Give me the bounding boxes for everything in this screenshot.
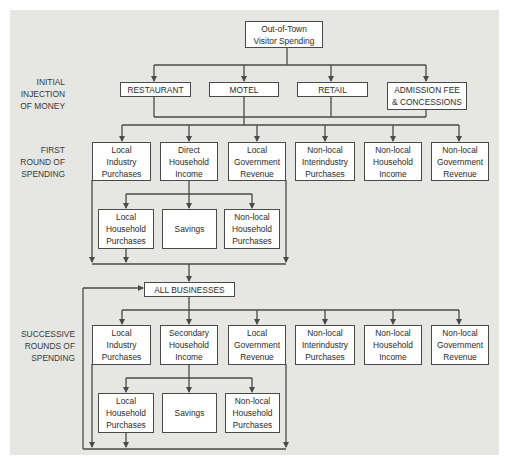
box-first-local-government-revenue: Local Government Revenue [228,142,286,181]
box-successive-local-government-revenue: Local Government Revenue [228,325,286,365]
box-out-of-town-visitor-spending: Out-of-Town Visitor Spending [245,21,323,48]
box-successive-savings: Savings [162,393,217,433]
box-successive-nonlocal-government-revenue: Non-local Government Revenue [431,325,489,365]
box-successive-nonlocal-household-purchases: Non-local Household Purchases [225,393,280,433]
box-first-nonlocal-household-income: Non-local Household Income [364,142,422,181]
box-first-nonlocal-government-revenue: Non-local Government Revenue [431,142,489,181]
box-successive-local-household-purchases: Local Household Purchases [98,393,154,433]
box-first-local-household-purchases: Local Household Purchases [98,209,154,249]
label-successive-rounds: SUCCESSIVE ROUNDS OF SPENDING [10,328,75,364]
box-first-nonlocal-interindustry-purchases: Non-local Interindustry Purchases [295,142,355,181]
label-first-round: FIRST ROUND OF SPENDING [10,144,65,180]
box-all-businesses: ALL BUSINESSES [144,282,235,297]
box-restaurant: RESTAURANT [120,82,191,97]
box-direct-household-income: Direct Household Income [160,142,218,181]
box-retail: RETAIL [297,82,368,97]
box-first-nonlocal-household-purchases: Non-local Household Purchases [224,209,280,249]
box-secondary-household-income: Secondary Household Income [160,325,218,365]
box-admission-fee-concessions: ADMISSION FEE & CONCESSIONS [387,82,467,110]
box-first-local-industry-purchases: Local Industry Purchases [92,142,151,181]
box-first-savings: Savings [162,209,217,249]
box-successive-local-industry-purchases: Local Industry Purchases [92,325,151,365]
box-successive-nonlocal-household-income: Non-local Household Income [364,325,422,365]
label-initial-injection: INITIAL INJECTION OF MONEY [10,76,65,112]
box-motel: MOTEL [209,82,279,97]
box-successive-nonlocal-interindustry-purchases: Non-local Interindustry Purchases [295,325,355,365]
